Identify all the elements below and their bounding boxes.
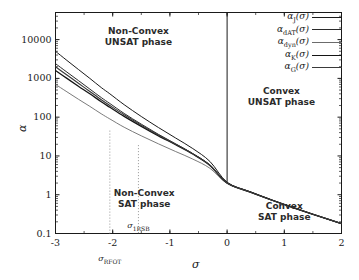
phase-label-non-convex-unsat: Non-ConvexUNSAT phase [88,26,188,49]
phase-label-line2: SAT phase [94,199,194,210]
legend-argument: (σ) [296,49,309,59]
legend-label: αJ(σ) [287,11,309,24]
x-tick-label: -1 [150,237,190,248]
legend-label: αdyn(σ) [278,36,309,49]
x-axis-title: σ [192,258,200,271]
legend-item-k: αK(σ) [236,49,342,62]
figure-container: α σ αJ(σ)αdAT(σ)αdyn(σ)αK(σ)αG(σ) -3-2-1… [0,0,359,280]
legend-subscript: dyn [284,41,296,49]
y-axis-title: α [16,125,29,132]
phase-label-line1: Non-Convex [94,188,194,199]
legend-item-j: αJ(σ) [236,11,342,24]
sigma-1rsb-label: σ1RSB [108,221,168,232]
sigma-subscript: 1RSB [133,224,150,231]
x-tick-label: 2 [322,237,359,248]
phase-label-convex-sat: ConvexSAT phase [234,201,334,224]
phase-label-line2: SAT phase [234,212,334,223]
legend-item-dyn: αdyn(σ) [236,36,342,49]
legend-line-sample [312,67,342,68]
y-tick-label: 1 [0,189,52,200]
phase-label-line2: UNSAT phase [88,37,188,48]
phase-label-line1: Non-Convex [88,26,188,37]
legend-item-dat: αdAT(σ) [236,24,342,37]
legend-line-sample [312,42,342,43]
phase-label-line1: Convex [231,86,331,97]
legend: αJ(σ)αdAT(σ)αdyn(σ)αK(σ)αG(σ) [236,11,342,75]
phase-label-non-convex-sat: Non-ConvexSAT phase [94,188,194,211]
x-tick-label: 0 [207,237,247,248]
legend-subscript: dAT [283,28,296,36]
y-tick-label: 10 [0,150,52,161]
y-tick-label: 0.1 [0,228,52,239]
x-tick-label: -2 [93,237,133,248]
phase-label-line1: Convex [234,201,334,212]
legend-line-sample [312,55,342,56]
sigma-subscript: RFOT [104,257,122,264]
phase-label-convex-unsat: ConvexUNSAT phase [231,86,331,109]
x-tick-label: 1 [264,237,304,248]
legend-argument: (σ) [296,61,309,71]
legend-label: αdAT(σ) [277,24,309,37]
legend-label: αG(σ) [285,61,309,74]
y-tick-label: 10000 [0,34,52,45]
legend-argument: (σ) [296,24,309,34]
y-tick-label: 1000 [0,72,52,83]
legend-line-sample [312,17,342,18]
legend-label: αK(σ) [285,49,309,62]
legend-line-sample [312,29,342,30]
y-tick-label: 100 [0,111,52,122]
legend-argument: (σ) [296,36,309,46]
sigma-rfot-label: σRFOT [80,254,140,265]
legend-item-g: αG(σ) [236,61,342,74]
phase-label-line2: UNSAT phase [231,97,331,108]
legend-argument: (σ) [296,11,309,21]
